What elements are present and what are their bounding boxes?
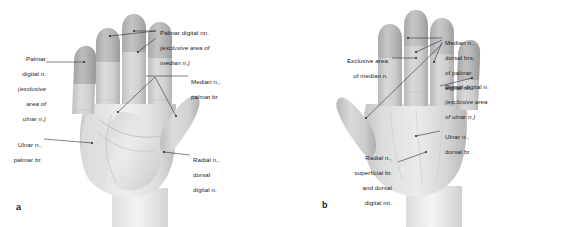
panel-b-dorsal-view: Median n., dorsal brs. of palmar digital…: [280, 0, 561, 227]
label-radial-n-dorsal-digital-n: Radial n., dorsal digital n.: [193, 149, 273, 201]
label-median-n-palmar-br: Median n., palmar br.: [191, 71, 279, 108]
label-exclusive-area-of-median-n: Exclusive area of median n.: [290, 50, 388, 87]
label-palmar-digital-n-ulnar: Palmar digital n. (exclusive area of uln…: [0, 48, 46, 129]
label-ulnar-n-dorsal-br: Ulnar n., dorsal br.: [445, 126, 531, 163]
label-ulnar-n-palmar-br: Ulnar n., palmar br.: [0, 134, 42, 171]
label-palmar-digital-nn-median: Palmar digital nn. (exclusive area of me…: [160, 22, 278, 74]
label-dorsal-digital-n-ulnar: Dorsal digital n. (exclusive area of uln…: [445, 76, 553, 128]
panel-letter-b: b: [322, 201, 328, 210]
ulnar-exclusive-territory: [74, 46, 96, 84]
panel-letter-a: a: [16, 203, 21, 212]
label-radial-n-superficial-br: Radial n., superficial br. and dorsal di…: [292, 147, 392, 214]
panel-a-palmar-view: Palmar digital nn. (exclusive area of me…: [0, 0, 280, 227]
nerve-territory-figure: Palmar digital nn. (exclusive area of me…: [0, 0, 561, 227]
